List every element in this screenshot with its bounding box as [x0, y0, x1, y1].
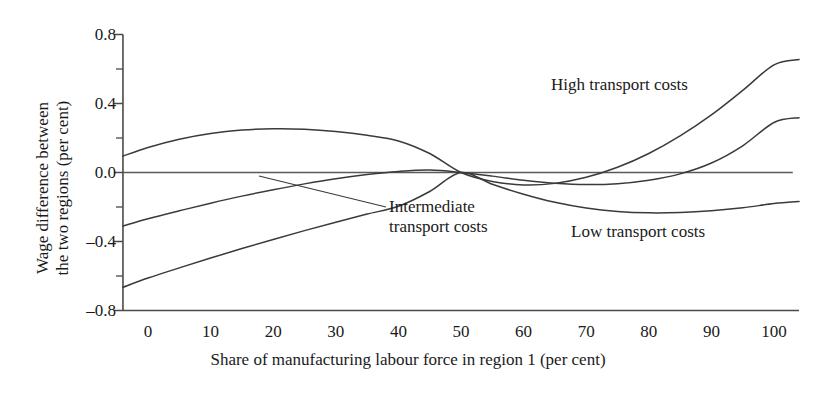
x-tick-label: 50 — [453, 322, 470, 342]
x-tick-label: 80 — [640, 322, 657, 342]
x-tick-label: 100 — [761, 322, 787, 342]
annotation-intermediate-transport-costs: Intermediate transport costs — [389, 197, 488, 237]
x-axis-title: Share of manufacturing labour force in r… — [0, 350, 816, 370]
chart-figure: –0.8–0.40.00.40.8 0102030405060708090100… — [0, 0, 816, 399]
x-tick-label: 90 — [703, 322, 720, 342]
annotation-low-transport-costs: Low transport costs — [571, 222, 705, 242]
x-tick-label: 30 — [327, 322, 344, 342]
x-tick-label: 0 — [144, 322, 153, 342]
x-tick-label: 60 — [515, 322, 532, 342]
x-tick-label: 10 — [202, 322, 219, 342]
curve-high-transport-costs — [123, 60, 799, 185]
annotation-intermediate-line1: Intermediate — [389, 197, 488, 217]
x-tick-label: 40 — [390, 322, 407, 342]
annotation-intermediate-line2: transport costs — [389, 217, 488, 237]
x-tick-label: 20 — [265, 322, 282, 342]
y-axis-title-line2: the two regions (per cent) — [53, 38, 73, 338]
annotation-high-transport-costs: High transport costs — [551, 75, 688, 95]
y-axis-title: Wage difference between the two regions … — [33, 38, 73, 338]
y-axis-title-line1: Wage difference between — [33, 38, 53, 338]
curves-group — [123, 60, 799, 288]
x-tick-label: 70 — [578, 322, 595, 342]
